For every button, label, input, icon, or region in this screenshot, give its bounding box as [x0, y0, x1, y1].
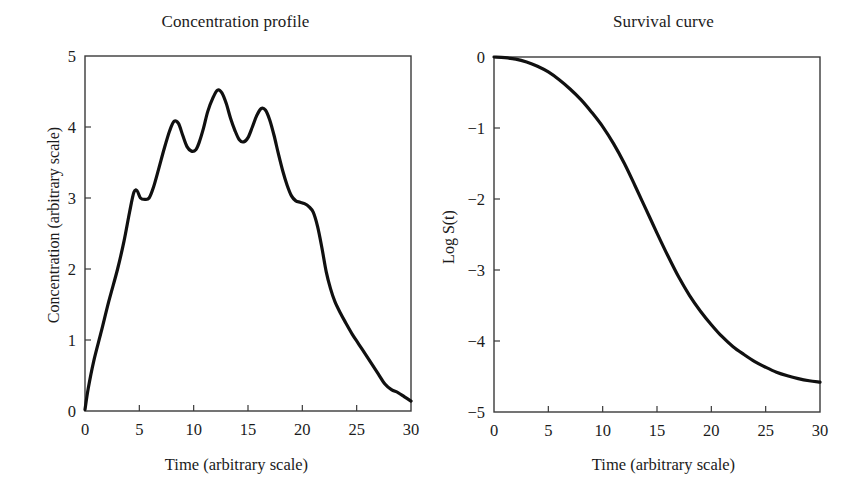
- y-tick-label: 3: [68, 189, 76, 208]
- x-tick-label: 25: [757, 421, 774, 440]
- x-tick-label: 20: [294, 420, 311, 439]
- y-tick-label: −5: [467, 403, 485, 422]
- y-tick-label: 4: [68, 118, 76, 137]
- figure-container: Concentration profile 051015202530012345…: [0, 0, 858, 489]
- y-tick-label: 1: [68, 331, 76, 350]
- x-tick-label: 5: [135, 420, 143, 439]
- y-tick-label: −4: [467, 332, 485, 351]
- y-tick-label: 2: [68, 260, 76, 279]
- panel-survival-curve: Survival curve 051015202530−5−4−3−2−10 T…: [429, 0, 858, 489]
- x-tick-label: 25: [348, 420, 365, 439]
- x-axis-label-right: Time (arbitrary scale): [429, 455, 858, 475]
- x-tick-label: 5: [544, 421, 552, 440]
- x-tick-label: 20: [703, 421, 720, 440]
- y-tick-label: −3: [467, 261, 485, 280]
- x-tick-label: 0: [81, 420, 89, 439]
- concentration-plot: 051015202530012345: [0, 0, 429, 489]
- y-tick-label: 0: [477, 48, 485, 67]
- survival-plot: 051015202530−5−4−3−2−10: [429, 0, 858, 489]
- x-tick-label: 15: [649, 421, 666, 440]
- data-curve-concentration: [85, 90, 411, 410]
- y-tick-label: 5: [68, 47, 76, 66]
- x-tick-label: 10: [185, 420, 202, 439]
- x-tick-label: 30: [403, 420, 420, 439]
- data-curve-log-survival: [494, 57, 820, 382]
- x-axis-label-left: Time (arbitrary scale): [0, 455, 429, 475]
- x-tick-label: 30: [812, 421, 829, 440]
- y-tick-label: 0: [68, 402, 76, 421]
- x-tick-label: 15: [240, 420, 257, 439]
- x-tick-label: 0: [490, 421, 498, 440]
- y-axis-label-left: Concentration (arbitrary scale): [45, 75, 63, 375]
- x-tick-label: 10: [594, 421, 611, 440]
- y-tick-label: −1: [467, 119, 485, 138]
- y-axis-label-right: Log S(t): [440, 157, 458, 317]
- y-tick-label: −2: [467, 190, 485, 209]
- panel-concentration-profile: Concentration profile 051015202530012345…: [0, 0, 429, 489]
